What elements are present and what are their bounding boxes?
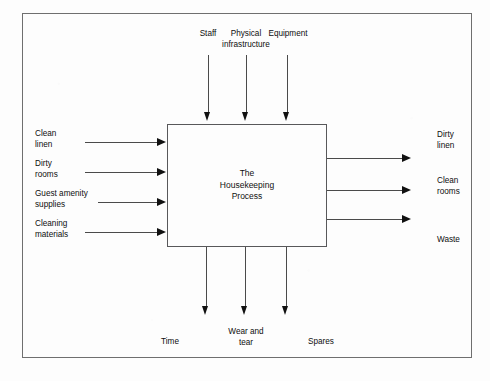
label-bottom-wear-and-tear: Wear and tear [219, 327, 273, 348]
label-right-clean-rooms: Clean rooms [437, 176, 485, 197]
label-left-clean-linen: Clean linen [35, 129, 95, 150]
label-bottom-spares: Spares [297, 337, 345, 348]
diagram-page: Staff Physical infrastructure Equipment … [0, 0, 490, 381]
label-right-dirty-linen: Dirty linen [437, 130, 485, 151]
label-right-waste: Waste [437, 235, 485, 246]
process-box-label: The Housekeeping Process [220, 168, 274, 203]
label-bottom-time: Time [146, 337, 194, 348]
label-top-equipment: Equipment [257, 29, 319, 40]
label-left-dirty-rooms: Dirty rooms [35, 159, 95, 180]
label-left-cleaning-materials: Cleaning materials [35, 219, 97, 240]
process-box: The Housekeeping Process [167, 124, 327, 247]
label-left-guest-amenity-supplies: Guest amenity supplies [35, 189, 103, 210]
